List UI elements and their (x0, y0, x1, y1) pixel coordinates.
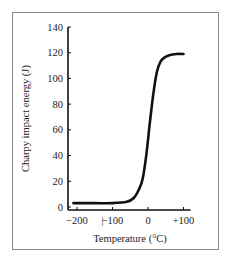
svg-text:20: 20 (53, 176, 64, 187)
svg-text:60: 60 (53, 124, 64, 135)
chart-plot: 020406080100120140−200−1000+100| (0, 0, 232, 262)
svg-text:140: 140 (47, 22, 63, 33)
y-axis-label: Charpy impact energy (J) (20, 49, 31, 189)
svg-text:|: | (102, 215, 104, 226)
svg-text:+100: +100 (173, 215, 195, 226)
svg-text:100: 100 (47, 73, 63, 84)
svg-text:0: 0 (145, 215, 150, 226)
x-axis-label: Temperature (°C) (60, 233, 200, 244)
svg-text:80: 80 (53, 99, 64, 110)
svg-text:0: 0 (58, 202, 63, 213)
data-curve (73, 54, 183, 203)
svg-text:−100: −100 (102, 215, 124, 226)
svg-text:120: 120 (47, 47, 63, 58)
svg-text:−200: −200 (66, 215, 88, 226)
svg-text:40: 40 (53, 150, 64, 161)
ticks: 020406080100120140−200−1000+100| (47, 22, 194, 227)
